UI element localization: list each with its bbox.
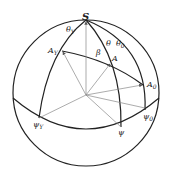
vector-ay <box>63 52 86 95</box>
line-psi-0 <box>86 95 145 108</box>
vector-a <box>86 64 110 95</box>
label-psi: ψ <box>118 128 125 137</box>
label-theta-y: θY <box>66 25 76 35</box>
label-psi-0: ψ0 <box>143 112 153 122</box>
label-a: A <box>111 54 118 63</box>
vector-a0 <box>86 85 142 95</box>
label-a-0: A0 <box>146 80 157 90</box>
label-s: S <box>82 11 89 22</box>
line-psi-y <box>39 95 86 118</box>
arc-ay-a-a0 <box>62 51 143 85</box>
label-psi-y: ψY <box>33 120 44 130</box>
sphere-diagram: S θY θ θ0 β AY A A0 ψY ψ ψ0 <box>0 0 170 183</box>
label-theta: θ <box>106 39 111 48</box>
label-beta: β <box>95 48 101 57</box>
label-a-y: AY <box>47 46 59 56</box>
meridian-0 <box>86 20 145 110</box>
meridian-y <box>39 20 86 118</box>
label-theta-0: θ0 <box>116 39 125 49</box>
line-psi <box>86 95 121 127</box>
